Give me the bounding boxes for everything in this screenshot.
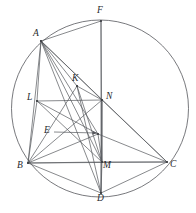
circle-layer [12,20,189,197]
circumcircle [12,20,189,197]
point-label-B: B [17,161,23,171]
segment-L-N [37,100,102,101]
segment-K-D [77,86,101,193]
vertex-point-F [100,20,102,22]
point-label-C: C [170,160,176,170]
vertex-point-K [76,85,78,87]
point-label-N: N [106,92,112,102]
point-label-D: D [97,194,104,204]
point-label-M: M [103,161,111,171]
vertex-point-N [101,99,103,101]
vertex-point-A [40,40,42,42]
vertex-point-C [166,161,168,163]
segment-E-C [98,134,167,162]
segments-layer [28,21,167,193]
pointer-arrow-E [54,132,97,133]
geometry-diagram: AFKNLEBMCD [0,0,196,213]
vertex-point-L [36,100,38,102]
point-label-E: E [44,126,50,136]
vertex-point-B [27,162,29,164]
segment-N-C [102,100,167,162]
point-label-F: F [97,6,103,16]
point-label-L: L [27,93,32,103]
segment-B-K [28,86,77,163]
segment-B-N [28,100,102,163]
vertex-point-E [97,133,99,135]
annotations-layer [54,131,97,135]
geometry-canvas [0,0,196,213]
segment-A-F [41,21,101,41]
segment-B-D [28,163,101,193]
point-label-K: K [72,74,78,84]
segment-A-D [41,41,101,193]
segment-B-L [28,101,37,163]
point-label-A: A [33,29,39,39]
